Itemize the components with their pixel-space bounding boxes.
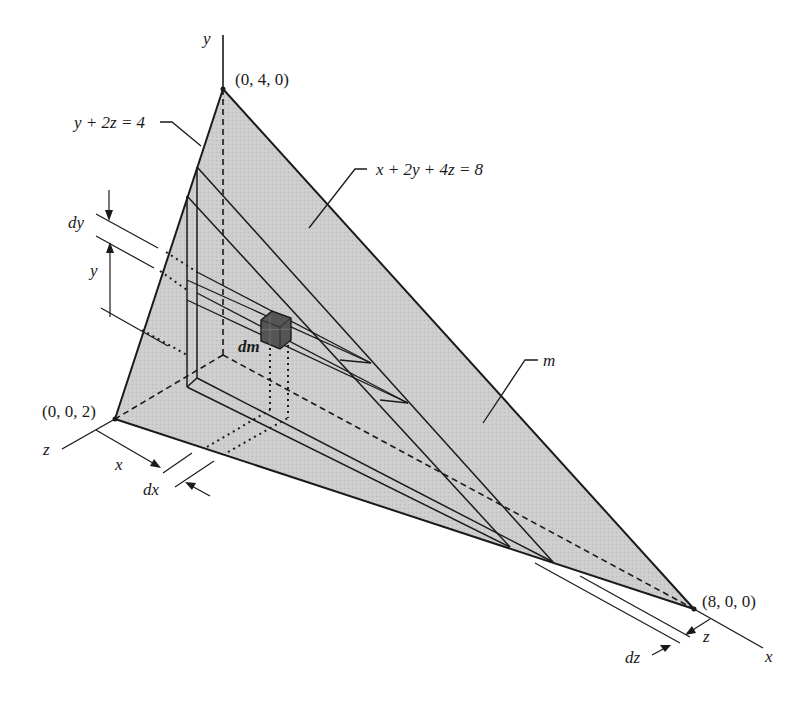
dm-label: dm: [238, 338, 260, 355]
y-dim-label: y: [90, 262, 98, 279]
x-arrowhead: [150, 459, 161, 468]
vertex-top-dot: [221, 87, 226, 92]
z-axis: [62, 419, 115, 449]
vertex-right-label: (8, 0, 0): [702, 593, 756, 610]
x-arrow: [96, 430, 158, 466]
mass-element-cube: [261, 311, 291, 349]
leader-trace-eq: [160, 122, 201, 146]
dy-ext-top: [96, 214, 158, 248]
tetrahedron-figure: y (0, 4, 0) y + 2z = 4 x + 2y + 4z = 8 d…: [0, 0, 809, 701]
z-dim-label: z: [703, 628, 710, 645]
vertex-left-dot: [113, 417, 118, 422]
dx-label: dx: [143, 481, 159, 498]
x-dim-label: x: [115, 456, 123, 473]
z-axis-label: z: [43, 441, 50, 458]
dy-label: dy: [68, 214, 84, 231]
dz-arrowhead: [660, 645, 671, 652]
vertex-right-dot: [692, 607, 697, 612]
y-axis-label: y: [203, 30, 211, 47]
y-arrowhead: [106, 242, 114, 253]
plane-equation-label: x + 2y + 4z = 8: [376, 161, 483, 178]
z-arrowhead: [685, 626, 696, 635]
dz-label: dz: [625, 649, 640, 666]
mass-label: m: [543, 352, 555, 369]
trace-equation-label: y + 2z = 4: [74, 114, 145, 131]
vertex-top-label: (0, 4, 0): [235, 71, 289, 88]
dx-ext-1: [163, 453, 192, 473]
dx-arrowhead: [185, 482, 196, 490]
diagram-canvas: [0, 0, 809, 701]
x-axis-label: x: [765, 648, 773, 665]
vertex-left-label: (0, 0, 2): [42, 403, 96, 420]
